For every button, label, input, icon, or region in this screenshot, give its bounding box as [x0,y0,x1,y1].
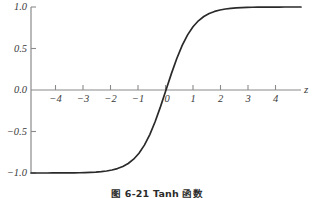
x-tick-label-minus1: −1 [132,94,144,105]
y-tick-label-4: −0.5 [0,126,27,137]
y-tick-label-2: 0.5 [0,43,27,54]
x-tick-label-4: 4 [273,94,278,105]
tanh-plot-svg [0,0,314,198]
x-axis-variable-label: z [304,84,308,95]
y-tick-label-1: 1.0 [0,2,27,13]
y-tick-label-5: −1.0 [0,168,27,179]
x-tick-label-2: 2 [218,94,223,105]
x-tick-label-minus4: −4 [49,94,61,105]
x-tick-label-zero: 0 [164,94,169,105]
tanh-figure: 1.0 0.5 0.0 −0.5 −1.0 −4 −3 −2 −1 0 1 2 … [0,0,314,198]
x-tick-label-1: 1 [190,94,195,105]
x-tick-label-minus2: −2 [104,94,116,105]
figure-caption: 图 6-21 Tanh 函数 [0,186,314,198]
x-tick-label-minus3: −3 [77,94,89,105]
y-tick-label-3: 0.0 [0,85,27,96]
x-tick-label-3: 3 [245,94,250,105]
